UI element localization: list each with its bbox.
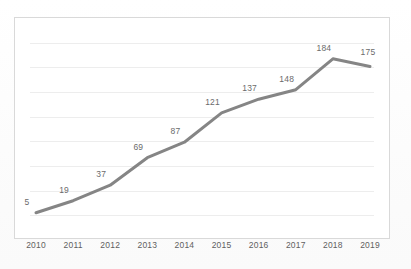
data-point-label: 5 xyxy=(25,197,30,207)
x-axis-tick-2012: 2012 xyxy=(100,240,120,250)
x-axis-tick-2016: 2016 xyxy=(249,240,269,250)
line-series-path xyxy=(36,59,370,213)
data-point-label: 69 xyxy=(133,142,143,152)
data-point-label: 175 xyxy=(361,47,376,57)
x-axis-tick-2015: 2015 xyxy=(212,240,232,250)
x-axis-tick-labels: 2010201120122013201420152016201720182019 xyxy=(14,240,390,256)
line-series-svg xyxy=(14,17,390,239)
figure-caption xyxy=(0,259,411,269)
x-axis-tick-2011: 2011 xyxy=(64,240,83,250)
x-axis-tick-2017: 2017 xyxy=(286,240,306,250)
data-point-label: 37 xyxy=(96,169,106,179)
data-point-label: 148 xyxy=(279,74,294,84)
plot-area: 519376987121137148184175 xyxy=(14,17,390,239)
data-point-label: 19 xyxy=(59,185,69,195)
data-point-label: 121 xyxy=(205,97,220,107)
data-point-label: 184 xyxy=(316,43,331,53)
figure-container: 519376987121137148184175 201020112012201… xyxy=(0,0,411,269)
x-axis-tick-2018: 2018 xyxy=(323,240,343,250)
x-axis-tick-2014: 2014 xyxy=(175,240,195,250)
x-axis-tick-2013: 2013 xyxy=(137,240,157,250)
data-point-label: 87 xyxy=(171,126,181,136)
x-axis-tick-2010: 2010 xyxy=(26,240,46,250)
x-axis-tick-2019: 2019 xyxy=(360,240,380,250)
data-point-label: 137 xyxy=(242,83,257,93)
